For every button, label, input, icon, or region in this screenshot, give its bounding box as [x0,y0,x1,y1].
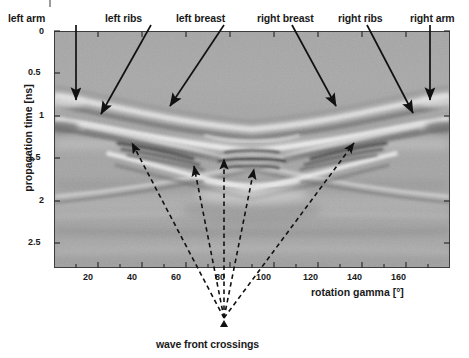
label-left-breast: left breast [176,12,225,24]
y-axis-title: propagation time [ns] [22,58,34,218]
label-right-arm: right arm [410,12,455,24]
y-tick-label-2: 2 [39,195,44,205]
y-tick-label-1: 1 [39,110,44,120]
x-tick-label-100: 100 [256,272,271,282]
x-tick-label-120: 120 [303,272,318,282]
label-right-breast: right breast [257,12,314,24]
y-tick-label-0: 0 [39,26,44,36]
label-left-ribs: left ribs [105,12,142,24]
x-axis-title: rotation gamma [°] [311,286,404,298]
crossings-converge-marker [220,320,228,327]
figure-container: 0 0.5 1 1.5 2 2.5 20 40 60 80 100 120 14… [0,0,469,358]
x-tick-label-40: 40 [127,272,137,282]
x-tick-label-140: 140 [347,272,362,282]
label-right-ribs: right ribs [338,12,383,24]
bscan-image [55,32,449,267]
label-left-arm: left arm [8,12,45,24]
y-tick-label-2.5: 2.5 [28,237,41,247]
x-tick-label-60: 60 [171,272,181,282]
wave-front-crossings-label: wave front crossings [156,338,259,350]
x-tick-label-20: 20 [83,272,93,282]
x-tick-label-80: 80 [215,272,225,282]
x-tick-label-160: 160 [391,272,406,282]
bscan-plot-area [54,31,450,268]
